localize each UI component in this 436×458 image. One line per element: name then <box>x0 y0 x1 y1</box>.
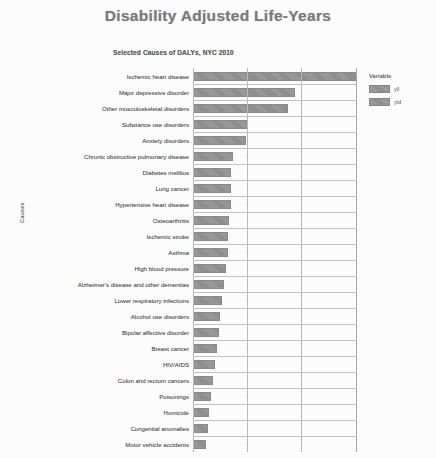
bar-row: HIV/AIDS <box>36 356 361 372</box>
legend-label: yll <box>394 86 399 92</box>
category-label: Bipolar affective disorder <box>36 329 193 336</box>
legend-swatch-icon <box>369 98 390 106</box>
category-label: Colon and rectum cancers <box>36 377 193 384</box>
bar-cell <box>193 276 361 292</box>
bar-cell <box>193 84 361 100</box>
category-label: Motor vehicle accidents <box>36 441 193 448</box>
bar-row: Bipolar affective disorder <box>36 324 361 340</box>
bar <box>193 328 219 337</box>
bar-row: Motor vehicle accidents <box>36 436 361 452</box>
bar-row: Colon and rectum cancers <box>36 372 361 388</box>
bar <box>193 264 226 273</box>
category-label: Anxiety disorders <box>36 137 193 144</box>
category-label: Osteoarthritis <box>36 217 193 224</box>
bar <box>193 296 222 305</box>
bar-rows: Ischemic heart diseaseMajor depressive d… <box>36 68 361 452</box>
bar-cell <box>193 212 361 228</box>
bar-cell <box>193 116 361 132</box>
legend-items: yllyld <box>369 85 431 106</box>
bar-row: Other musculoskeletal disorders <box>36 100 361 116</box>
bar-cell <box>193 100 361 116</box>
bar-row: Diabetes mellitus <box>36 164 361 180</box>
chart-subtitle: Selected Causes of DALYs, NYC 2010 <box>113 49 234 56</box>
chart-plot-area: Ischemic heart diseaseMajor depressive d… <box>36 68 361 452</box>
bar-row: Asthma <box>36 244 361 260</box>
bar <box>193 312 220 321</box>
category-label: Diabetes mellitus <box>36 169 193 176</box>
category-label: Lower respiratory infections <box>36 297 193 304</box>
bar <box>193 136 246 145</box>
category-label: Chronic obstructive pulmonary disease <box>36 153 193 160</box>
bar-row: Anxiety disorders <box>36 132 361 148</box>
bar <box>193 376 213 385</box>
bar-row: Hypertensive heart disease <box>36 196 361 212</box>
bar <box>193 248 228 257</box>
y-axis-title: Causes <box>19 163 25 223</box>
chart-page: Disability Adjusted Life-Years Selected … <box>0 0 436 458</box>
legend: Variable yllyld <box>369 73 431 111</box>
bar-row: Breast cancer <box>36 340 361 356</box>
category-label: Hypertensive heart disease <box>36 201 193 208</box>
category-label: Alzheimer's disease and other dementias <box>36 281 193 288</box>
bar-cell <box>193 164 361 180</box>
bar-row: Major depressive disorder <box>36 84 361 100</box>
bar <box>193 424 208 433</box>
category-label: Substance use disorders <box>36 121 193 128</box>
bar-row: Osteoarthritis <box>36 212 361 228</box>
bar-cell <box>193 148 361 164</box>
bar-row: Lung cancer <box>36 180 361 196</box>
bar-cell <box>193 436 361 452</box>
category-label: Poisonings <box>36 393 193 400</box>
category-label: Major depressive disorder <box>36 89 193 96</box>
bar <box>193 200 231 209</box>
category-label: High blood pressure <box>36 265 193 272</box>
bar <box>193 168 231 177</box>
legend-item[interactable]: yld <box>369 98 431 106</box>
category-label: Breast cancer <box>36 345 193 352</box>
bar <box>193 392 211 401</box>
bar <box>193 120 248 129</box>
bar-cell <box>193 324 361 340</box>
bar-cell <box>193 356 361 372</box>
category-label: Ischemic stroke <box>36 233 193 240</box>
bar-cell <box>193 196 361 212</box>
category-label: Lung cancer <box>36 185 193 192</box>
bar <box>193 88 295 97</box>
bar-row: Poisonings <box>36 388 361 404</box>
bar-row: Alzheimer's disease and other dementias <box>36 276 361 292</box>
bar-cell <box>193 420 361 436</box>
bar-cell <box>193 228 361 244</box>
bar-row: Substance use disorders <box>36 116 361 132</box>
legend-label: yld <box>394 99 401 105</box>
bar-cell <box>193 180 361 196</box>
legend-item[interactable]: yll <box>369 85 431 93</box>
bar-cell <box>193 340 361 356</box>
bar-row: Ischemic heart disease <box>36 68 361 84</box>
category-label: Alcohol use disorders <box>36 313 193 320</box>
bar <box>193 360 215 369</box>
bar-cell <box>193 68 361 84</box>
bar-cell <box>193 388 361 404</box>
bar-cell <box>193 308 361 324</box>
bar-cell <box>193 244 361 260</box>
bar <box>193 280 224 289</box>
category-label: Homicide <box>36 409 193 416</box>
legend-swatch-icon <box>369 85 390 93</box>
bar-cell <box>193 292 361 308</box>
bar-cell <box>193 132 361 148</box>
bar-row: Congenital anomalies <box>36 420 361 436</box>
bar <box>193 104 288 113</box>
bar <box>193 184 231 193</box>
bar <box>193 440 206 449</box>
bar <box>193 408 209 417</box>
bar-cell <box>193 404 361 420</box>
page-title: Disability Adjusted Life-Years <box>0 7 436 25</box>
category-label: Congenital anomalies <box>36 425 193 432</box>
bar <box>193 216 229 225</box>
category-label: HIV/AIDS <box>36 361 193 368</box>
bar-cell <box>193 260 361 276</box>
bar <box>193 152 233 161</box>
bar-row: Chronic obstructive pulmonary disease <box>36 148 361 164</box>
bar-row: Alcohol use disorders <box>36 308 361 324</box>
bar-row: Lower respiratory infections <box>36 292 361 308</box>
